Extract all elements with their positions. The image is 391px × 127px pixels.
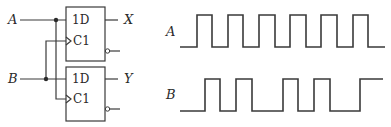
output-label-y: Y	[124, 71, 134, 86]
ff2-d-pin-label: 1D	[72, 72, 89, 86]
waveform-label-a: A	[165, 24, 175, 39]
ff2-clock-pin-label: C1	[73, 92, 90, 106]
ff2-qbar-bubble-icon	[105, 107, 109, 111]
ff1-qbar-bubble-icon	[105, 49, 109, 53]
d-flip-flop-diagram: A B 1D C1 X 1D C1 Y A B	[0, 0, 391, 127]
output-label-x: X	[123, 12, 134, 27]
waveform-a	[180, 15, 385, 47]
junction-dot-a	[54, 18, 58, 22]
junction-dot-b	[44, 77, 48, 81]
ff1-d-pin-label: 1D	[72, 13, 89, 27]
waveform-b	[180, 79, 383, 111]
input-label-a: A	[7, 12, 17, 27]
ff1-clock-pin-label: C1	[73, 34, 90, 48]
flip-flop-1: 1D C1 X	[66, 7, 134, 61]
flip-flop-2: 1D C1 Y	[66, 67, 134, 121]
input-label-b: B	[7, 71, 18, 86]
wire-a-to-ff2-clock	[56, 20, 66, 99]
waveform-label-b: B	[165, 87, 176, 102]
